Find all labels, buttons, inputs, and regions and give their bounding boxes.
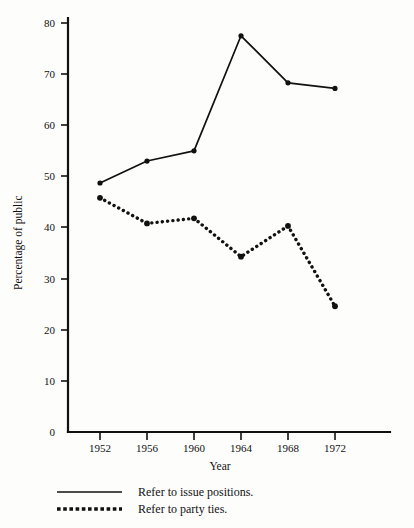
x-tick-label-1972: 1972 xyxy=(324,442,346,454)
legend-label-issue-positions: Refer to issue positions. xyxy=(138,485,253,499)
data-point xyxy=(97,195,103,201)
series-line-1 xyxy=(100,36,335,183)
data-point xyxy=(238,33,243,38)
y-axis-title: Percentage of public xyxy=(12,195,25,290)
y-tick-label-50: 50 xyxy=(44,170,56,182)
x-axis-tick-labels: 1952 1956 1960 1964 1968 1972 xyxy=(89,442,346,454)
x-axis-title: Year xyxy=(209,460,230,472)
data-point xyxy=(332,303,338,309)
x-axis-ticks xyxy=(100,432,335,440)
y-tick-label-10: 10 xyxy=(44,375,56,387)
data-point xyxy=(144,221,150,227)
data-point xyxy=(285,223,291,229)
data-point xyxy=(285,80,290,85)
x-tick-label-1956: 1956 xyxy=(136,442,159,454)
data-point xyxy=(191,215,197,221)
y-tick-label-60: 60 xyxy=(44,119,56,131)
x-tick-label-1952: 1952 xyxy=(89,442,111,454)
data-point xyxy=(238,254,244,260)
legend-label-party-ties: Refer to party ties. xyxy=(138,502,227,516)
x-tick-label-1964: 1964 xyxy=(230,442,253,454)
x-tick-label-1968: 1968 xyxy=(277,442,300,454)
series-layer xyxy=(97,33,338,309)
y-tick-label-30: 30 xyxy=(44,273,56,285)
y-tick-label-0: 0 xyxy=(50,426,56,438)
series-line-2 xyxy=(100,198,335,306)
chart-legend: Refer to issue positions. Refer to party… xyxy=(57,485,253,516)
data-point xyxy=(332,86,337,91)
data-point xyxy=(97,180,102,185)
line-chart: Percentage of public Year 80 70 60 50 40… xyxy=(0,0,414,528)
data-point xyxy=(191,148,196,153)
y-tick-label-70: 70 xyxy=(44,68,56,80)
y-tick-label-20: 20 xyxy=(44,324,56,336)
y-tick-label-40: 40 xyxy=(44,221,56,233)
y-tick-label-80: 80 xyxy=(44,17,56,29)
y-axis-tick-labels: 80 70 60 50 40 30 20 10 0 xyxy=(44,17,56,438)
x-tick-label-1960: 1960 xyxy=(183,442,206,454)
data-point xyxy=(144,158,149,163)
chart-page: Percentage of public Year 80 70 60 50 40… xyxy=(0,0,414,528)
